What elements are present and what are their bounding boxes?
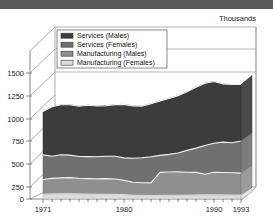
legend-swatch-services-females — [61, 42, 73, 47]
top-bar — [0, 0, 273, 9]
chart-legend: Services (Males) Services (Females) Manu… — [57, 30, 167, 68]
x-tick-label: 1993 — [233, 205, 250, 214]
y-tick-label: 0 — [20, 195, 24, 204]
y-tick-label: 1000 — [7, 115, 24, 124]
legend-label-services-females: Services (Females) — [77, 41, 137, 49]
y-tick-label: 1250 — [7, 92, 24, 101]
chart-svg: 1500 1250 1000 750 500 250 0 — [0, 9, 273, 219]
depth-services-males — [241, 76, 252, 142]
legend-swatch-services-males — [61, 33, 73, 38]
depth-face — [241, 76, 252, 200]
legend-label-services-males: Services (Males) — [77, 32, 129, 40]
legend-swatch-manufacturing-females — [61, 60, 73, 65]
y-tick-label: 750 — [11, 137, 24, 146]
y-tick-label: 1500 — [7, 69, 24, 78]
area-stack — [43, 82, 241, 200]
y-axis: 1500 1250 1000 750 500 250 0 — [7, 69, 32, 204]
legend-swatch-manufacturing-males — [61, 51, 73, 56]
legend-label-manufacturing-females: Manufacturing (Females) — [77, 59, 155, 67]
chart-figure: 1500 1250 1000 750 500 250 0 — [0, 9, 273, 219]
legend-label-manufacturing-males: Manufacturing (Males) — [77, 50, 147, 58]
unit-label: Thousands — [219, 14, 256, 23]
x-tick-label: 1990 — [206, 205, 223, 214]
x-axis: 1971 1980 1990 1993 — [35, 199, 250, 214]
chart-screenshot: 1500 1250 1000 750 500 250 0 — [0, 0, 273, 219]
x-tick-label: 1971 — [35, 205, 52, 214]
x-tick-label: 1980 — [116, 205, 133, 214]
y-tick-label: 500 — [11, 160, 24, 169]
y-tick-label: 250 — [11, 183, 24, 192]
